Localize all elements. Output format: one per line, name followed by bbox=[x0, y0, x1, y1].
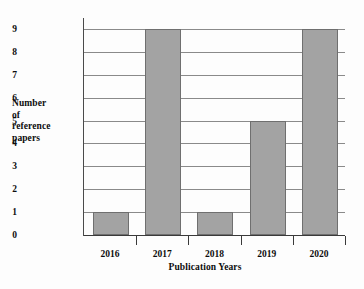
bar-2018 bbox=[197, 212, 233, 235]
y-tick-label-4: 4 bbox=[3, 138, 17, 148]
x-tick-label-2019: 2019 bbox=[241, 249, 293, 259]
y-tick-label-9: 9 bbox=[3, 24, 17, 34]
y-axis-title: Number of reference papers bbox=[12, 98, 70, 144]
x-tick-label-2017: 2017 bbox=[136, 249, 188, 259]
bar-2017 bbox=[145, 29, 181, 235]
x-tick-3 bbox=[241, 236, 242, 245]
x-tick-label-2016: 2016 bbox=[84, 249, 136, 259]
x-axis-baseline bbox=[84, 235, 345, 236]
x-tick-2 bbox=[188, 236, 189, 245]
plot-area bbox=[84, 29, 345, 235]
y-tick-label-0: 0 bbox=[3, 230, 17, 240]
y-axis-title-line-2: of bbox=[12, 110, 70, 122]
x-tick-5 bbox=[345, 236, 346, 245]
x-tick-4 bbox=[293, 236, 294, 245]
y-tick-label-7: 7 bbox=[3, 70, 17, 80]
bar-2019 bbox=[250, 121, 286, 235]
x-tick-label-2018: 2018 bbox=[189, 249, 241, 259]
x-axis-title: Publication Years bbox=[80, 262, 330, 272]
bar-2016 bbox=[93, 212, 129, 235]
bar-2020 bbox=[302, 29, 338, 235]
y-axis-title-line-1: Number bbox=[12, 98, 70, 110]
y-tick-label-2: 2 bbox=[3, 184, 17, 194]
y-tick-label-6: 6 bbox=[3, 93, 17, 103]
x-tick-label-2020: 2020 bbox=[293, 249, 345, 259]
y-tick-label-8: 8 bbox=[3, 47, 17, 57]
y-axis-title-line-4: papers bbox=[12, 133, 70, 145]
y-tick-label-1: 1 bbox=[3, 207, 17, 217]
y-axis-title-line-3: reference bbox=[12, 121, 70, 133]
y-tick-label-3: 3 bbox=[3, 161, 17, 171]
bar-chart: Number of reference papers 9 8 7 6 5 4 3… bbox=[0, 0, 364, 289]
y-tick-label-5: 5 bbox=[3, 116, 17, 126]
x-tick-1 bbox=[136, 236, 137, 245]
